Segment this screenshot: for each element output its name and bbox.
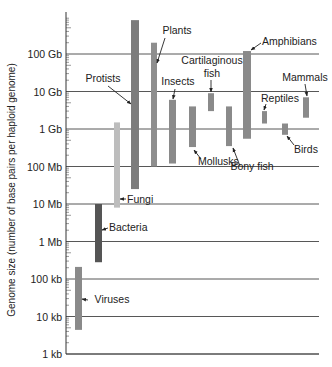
arrow-icon: [287, 136, 294, 145]
label-reptiles: Reptiles: [261, 92, 299, 104]
bar-bacteria: [95, 204, 102, 262]
label-bony-fish: Bony fish: [230, 160, 273, 172]
arrow-icon: [251, 43, 261, 50]
label-amphibians: Amphibians: [262, 35, 317, 47]
y-tick-label: 1 kb: [42, 348, 62, 360]
label-birds: Birds: [294, 143, 318, 155]
bar-insects: [169, 100, 176, 164]
bar-fungi: [114, 122, 120, 207]
label-bacteria: Bacteria: [109, 221, 148, 233]
label-viruses: Viruses: [95, 293, 130, 305]
range-bars: [75, 20, 309, 330]
y-tick-label: 1 Gb: [39, 123, 62, 135]
label-insects: Insects: [161, 75, 194, 87]
arrow-icon: [264, 104, 266, 110]
arrow-icon: [108, 86, 131, 104]
label-fish: fish: [204, 67, 221, 79]
y-tick-label: 100 Mb: [27, 161, 62, 173]
bar-birds: [282, 124, 288, 135]
y-axis-label: Genome size (number of base pairs per ha…: [6, 63, 17, 316]
minor-ticks: [66, 18, 71, 342]
arrow-icon: [102, 228, 108, 230]
bar-protists: [131, 20, 139, 189]
label-protists: Protists: [85, 72, 120, 84]
bar-mollusks: [189, 106, 196, 147]
label-fungi: Fungi: [127, 193, 153, 205]
arrow-icon: [305, 84, 307, 96]
y-tick-label: 10 Mb: [33, 198, 62, 210]
y-tick-label: 100 kb: [30, 273, 62, 285]
label-plants: Plants: [162, 24, 191, 36]
genome-size-chart: 1 kb10 kb100 kb1 Mb10 Mb100 Mb1 Gb10 Gb1…: [0, 0, 332, 367]
bar-viruses: [75, 267, 82, 330]
label-cartilaginous: Cartilaginous: [181, 54, 242, 66]
y-tick-label: 1 Mb: [39, 236, 63, 248]
bar-amphibians: [243, 51, 251, 139]
bar-bony-fish: [226, 106, 232, 146]
y-tick-label: 100 Gb: [28, 48, 63, 60]
y-tick-label: 10 Gb: [33, 86, 62, 98]
label-mammals: Mammals: [282, 71, 328, 83]
bar-reptiles: [262, 111, 267, 123]
y-axis-tick-labels: 1 kb10 kb100 kb1 Mb10 Mb100 Mb1 Gb10 Gb1…: [27, 48, 62, 360]
arrow-icon: [82, 299, 88, 300]
arrow-icon: [173, 89, 175, 99]
bar-cartilaginous-fish: [208, 93, 214, 111]
bar-plants: [151, 43, 157, 167]
bar-mammals: [303, 97, 309, 117]
y-tick-label: 10 kb: [36, 311, 62, 323]
arrow-icon: [157, 38, 165, 63]
